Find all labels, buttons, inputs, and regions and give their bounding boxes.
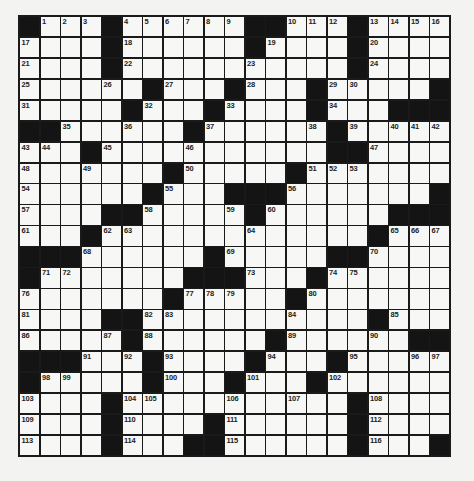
- grid-cell[interactable]: 84: [287, 310, 306, 329]
- grid-cell[interactable]: [287, 352, 306, 371]
- grid-cell[interactable]: [410, 164, 429, 183]
- grid-cell[interactable]: [143, 289, 162, 308]
- grid-cell[interactable]: [410, 394, 429, 413]
- grid-cell[interactable]: [389, 331, 408, 350]
- grid-cell[interactable]: 25: [20, 80, 39, 99]
- grid-cell[interactable]: [184, 352, 203, 371]
- grid-cell[interactable]: [225, 310, 244, 329]
- grid-cell[interactable]: [123, 289, 142, 308]
- grid-cell[interactable]: [225, 38, 244, 57]
- grid-cell[interactable]: 77: [184, 289, 203, 308]
- grid-cell[interactable]: 44: [41, 143, 60, 162]
- grid-cell[interactable]: [61, 38, 80, 57]
- grid-cell[interactable]: [102, 289, 121, 308]
- grid-cell[interactable]: [430, 268, 449, 287]
- grid-cell[interactable]: 61: [20, 226, 39, 245]
- grid-cell[interactable]: [102, 373, 121, 392]
- grid-cell[interactable]: [287, 101, 306, 120]
- grid-cell[interactable]: [410, 436, 429, 455]
- grid-cell[interactable]: [348, 205, 367, 224]
- grid-cell[interactable]: [307, 38, 326, 57]
- grid-cell[interactable]: [389, 143, 408, 162]
- grid-cell[interactable]: [123, 247, 142, 266]
- grid-cell[interactable]: [287, 373, 306, 392]
- grid-cell[interactable]: 83: [164, 310, 183, 329]
- grid-cell[interactable]: 39: [348, 122, 367, 141]
- grid-cell[interactable]: 19: [266, 38, 285, 57]
- grid-cell[interactable]: [123, 143, 142, 162]
- grid-cell[interactable]: [287, 268, 306, 287]
- grid-cell[interactable]: [164, 122, 183, 141]
- grid-cell[interactable]: [266, 122, 285, 141]
- grid-cell[interactable]: [266, 80, 285, 99]
- grid-cell[interactable]: [82, 310, 101, 329]
- grid-cell[interactable]: [82, 205, 101, 224]
- grid-cell[interactable]: 34: [328, 101, 347, 120]
- grid-cell[interactable]: [287, 59, 306, 78]
- grid-cell[interactable]: [328, 226, 347, 245]
- grid-cell[interactable]: [205, 184, 224, 203]
- grid-cell[interactable]: 113: [20, 436, 39, 455]
- grid-cell[interactable]: [430, 143, 449, 162]
- grid-cell[interactable]: [266, 436, 285, 455]
- grid-cell[interactable]: 59: [225, 205, 244, 224]
- grid-cell[interactable]: 48: [20, 164, 39, 183]
- grid-cell[interactable]: [205, 373, 224, 392]
- grid-cell[interactable]: [307, 143, 326, 162]
- grid-cell[interactable]: 98: [41, 373, 60, 392]
- grid-cell[interactable]: 55: [164, 184, 183, 203]
- grid-cell[interactable]: [61, 394, 80, 413]
- grid-cell[interactable]: 64: [246, 226, 265, 245]
- grid-cell[interactable]: [389, 164, 408, 183]
- grid-cell[interactable]: [225, 352, 244, 371]
- grid-cell[interactable]: [61, 143, 80, 162]
- grid-cell[interactable]: [184, 59, 203, 78]
- grid-cell[interactable]: [369, 164, 388, 183]
- grid-cell[interactable]: [61, 184, 80, 203]
- grid-cell[interactable]: [143, 122, 162, 141]
- grid-cell[interactable]: [205, 143, 224, 162]
- grid-cell[interactable]: 65: [389, 226, 408, 245]
- grid-cell[interactable]: [41, 394, 60, 413]
- grid-cell[interactable]: [328, 205, 347, 224]
- grid-cell[interactable]: [307, 184, 326, 203]
- grid-cell[interactable]: [410, 38, 429, 57]
- grid-cell[interactable]: [369, 122, 388, 141]
- grid-cell[interactable]: [348, 373, 367, 392]
- grid-cell[interactable]: [82, 415, 101, 434]
- grid-cell[interactable]: [41, 184, 60, 203]
- grid-cell[interactable]: [61, 331, 80, 350]
- grid-cell[interactable]: [410, 268, 429, 287]
- grid-cell[interactable]: [82, 436, 101, 455]
- grid-cell[interactable]: [143, 59, 162, 78]
- grid-cell[interactable]: [410, 415, 429, 434]
- grid-cell[interactable]: [184, 373, 203, 392]
- grid-cell[interactable]: [246, 394, 265, 413]
- grid-cell[interactable]: 2: [61, 17, 80, 36]
- grid-cell[interactable]: 28: [246, 80, 265, 99]
- grid-cell[interactable]: [143, 164, 162, 183]
- grid-cell[interactable]: [307, 415, 326, 434]
- grid-cell[interactable]: [430, 59, 449, 78]
- grid-cell[interactable]: [246, 122, 265, 141]
- grid-cell[interactable]: [348, 101, 367, 120]
- grid-cell[interactable]: [389, 415, 408, 434]
- grid-cell[interactable]: [184, 38, 203, 57]
- grid-cell[interactable]: 24: [369, 59, 388, 78]
- grid-cell[interactable]: [205, 205, 224, 224]
- grid-cell[interactable]: [389, 289, 408, 308]
- grid-cell[interactable]: [266, 268, 285, 287]
- grid-cell[interactable]: [430, 394, 449, 413]
- grid-cell[interactable]: 42: [430, 122, 449, 141]
- grid-cell[interactable]: [123, 80, 142, 99]
- grid-cell[interactable]: [205, 226, 224, 245]
- grid-cell[interactable]: [41, 80, 60, 99]
- grid-cell[interactable]: 109: [20, 415, 39, 434]
- grid-cell[interactable]: 74: [328, 268, 347, 287]
- grid-cell[interactable]: [123, 268, 142, 287]
- grid-cell[interactable]: [41, 38, 60, 57]
- grid-cell[interactable]: [307, 205, 326, 224]
- grid-cell[interactable]: [102, 184, 121, 203]
- grid-cell[interactable]: 72: [61, 268, 80, 287]
- grid-cell[interactable]: [389, 59, 408, 78]
